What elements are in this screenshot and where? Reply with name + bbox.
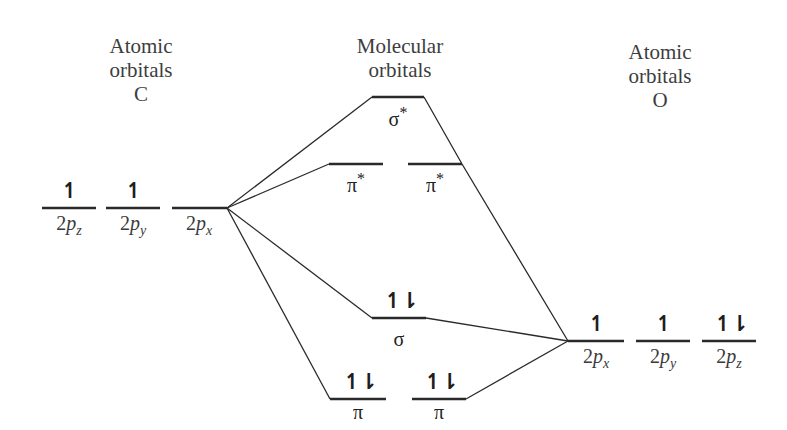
c-2py-electron-up-icon: ↿ (121, 178, 145, 203)
pi-star-2-asterisk: * (436, 170, 444, 187)
o-2pz-letter: p (726, 345, 736, 367)
sigma-star-symbol: σ (389, 108, 400, 130)
c-to-pi-star (227, 164, 329, 208)
heading-oxygen: Atomic orbitals O (590, 40, 730, 112)
sigma-star-asterisk: * (399, 104, 407, 121)
c-to-pi (227, 208, 330, 399)
o-2pz-prefix: 2 (716, 345, 726, 367)
c-2pz-label: 2pz (42, 212, 96, 239)
pi-star-2-label: π* (408, 170, 462, 197)
pi-star-1-symbol: π (347, 174, 357, 196)
pi-1-label: π (330, 401, 386, 424)
heading-oxygen-line2: orbitals (590, 64, 730, 88)
c-2px-sub: x (206, 223, 212, 238)
c-2pz-letter: p (66, 212, 76, 234)
pi-star-1-asterisk: * (357, 170, 365, 187)
sigma-symbol: σ (394, 328, 405, 350)
sigma-star-label: σ* (372, 104, 424, 131)
c-2px-label: 2px (172, 212, 226, 239)
sigma-electron-pair-icon: ↿⇂ (384, 288, 414, 313)
heading-carbon-line1: Atomic (71, 34, 211, 58)
pi-1-electron-pair-icon: ↿⇂ (343, 369, 373, 394)
o-2py-label: 2py (636, 345, 690, 372)
o-2px-sub: x (603, 356, 609, 371)
heading-molecular-line1: Molecular (330, 34, 470, 58)
o-2pz-sub: z (736, 356, 741, 371)
c-2pz-electron-up-icon: ↿ (57, 178, 81, 203)
pi-star-1-label: π* (329, 170, 383, 197)
o-2pz-electron-pair-icon: ↿⇂ (714, 311, 744, 336)
heading-carbon: Atomic orbitals C (71, 34, 211, 106)
pi-2-label: π (412, 401, 466, 424)
heading-molecular-line2: orbitals (330, 58, 470, 82)
pi-2-electron-pair-icon: ↿⇂ (424, 369, 454, 394)
c-2py-sub: y (140, 223, 146, 238)
o-2py-sub: y (670, 356, 676, 371)
sigma-to-o (426, 318, 568, 341)
o-2px-prefix: 2 (583, 345, 593, 367)
heading-carbon-line3: C (71, 82, 211, 106)
c-2py-label: 2py (106, 212, 160, 239)
heading-molecular: Molecular orbitals (330, 34, 470, 82)
heading-oxygen-line3: O (590, 88, 730, 112)
pi-star-2-symbol: π (426, 174, 436, 196)
pi-1-symbol: π (353, 401, 363, 423)
c-2py-letter: p (130, 212, 140, 234)
o-2py-letter: p (660, 345, 670, 367)
heading-oxygen-line1: Atomic (590, 40, 730, 64)
sigma-label: σ (372, 328, 426, 351)
heading-carbon-line2: orbitals (71, 58, 211, 82)
o-2py-electron-up-icon: ↿ (651, 311, 675, 336)
c-2py-prefix: 2 (120, 212, 130, 234)
o-2px-letter: p (593, 345, 603, 367)
o-2pz-label: 2pz (702, 345, 756, 372)
c-2pz-sub: z (76, 223, 81, 238)
c-2px-letter: p (196, 212, 206, 234)
o-2px-label: 2px (568, 345, 624, 372)
pi-to-o (466, 341, 568, 399)
o-2px-electron-up-icon: ↿ (584, 311, 608, 336)
c-to-sigma (227, 208, 372, 318)
o-2py-prefix: 2 (650, 345, 660, 367)
c-2px-prefix: 2 (186, 212, 196, 234)
sigma-star-to-o (424, 97, 568, 341)
pi-2-symbol: π (434, 401, 444, 423)
c-2pz-prefix: 2 (56, 212, 66, 234)
